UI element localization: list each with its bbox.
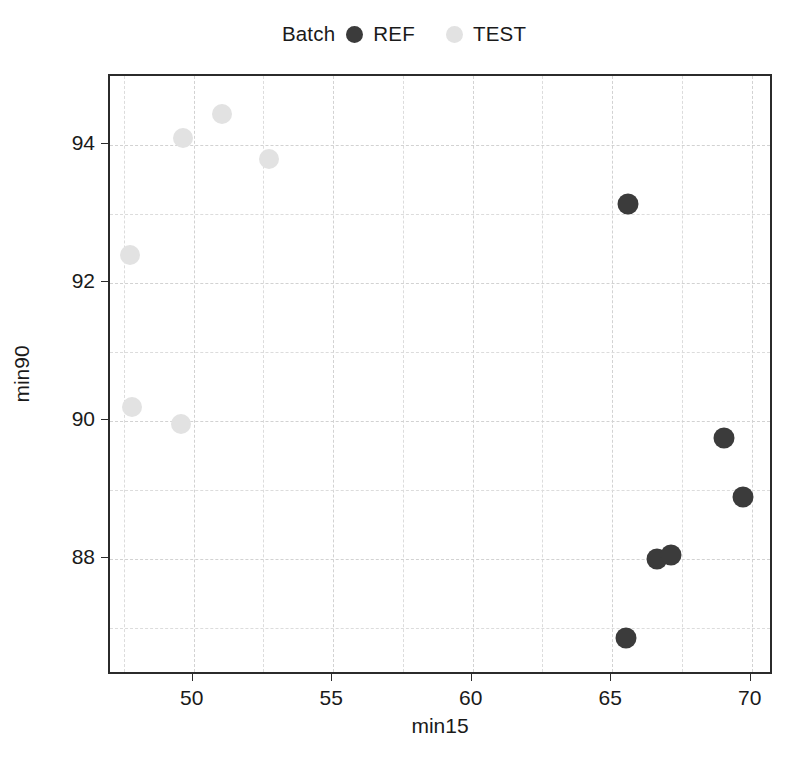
- data-point-test[interactable]: [212, 104, 232, 124]
- y-axis-tick-label: 94: [72, 131, 95, 155]
- x-axis-tick-label: 70: [738, 686, 761, 710]
- y-axis-label: min90: [10, 345, 34, 402]
- data-point-ref[interactable]: [617, 193, 638, 214]
- y-axis-tick-label: 92: [72, 269, 95, 293]
- data-point-ref[interactable]: [733, 486, 754, 507]
- data-point-ref[interactable]: [713, 428, 734, 449]
- y-axis-tick: [101, 143, 108, 144]
- data-point-test[interactable]: [122, 397, 142, 417]
- legend-title: Batch: [282, 22, 335, 46]
- y-axis-tick: [101, 557, 108, 558]
- x-axis-label: min15: [108, 714, 772, 738]
- plot-area: [108, 74, 772, 674]
- x-axis-tick-label: 50: [180, 686, 203, 710]
- legend-entry-ref[interactable]: REF: [346, 22, 415, 46]
- legend-marker-test-icon: [446, 26, 463, 43]
- data-point-ref[interactable]: [660, 545, 681, 566]
- legend-label-test: TEST: [473, 22, 526, 46]
- x-axis-tick-label: 55: [320, 686, 343, 710]
- data-point-test[interactable]: [120, 245, 140, 265]
- scatter-plot-figure: Batch REF TEST 505560657088909294 min15 …: [0, 0, 808, 769]
- legend: Batch REF TEST: [0, 22, 808, 46]
- y-axis-tick-label: 90: [72, 407, 95, 431]
- x-axis-tick: [192, 674, 193, 681]
- x-axis-tick: [331, 674, 332, 681]
- legend-marker-ref-icon: [346, 26, 363, 43]
- x-axis-tick: [610, 674, 611, 681]
- y-axis-tick: [101, 419, 108, 420]
- legend-entry-test[interactable]: TEST: [446, 22, 526, 46]
- x-axis-tick-label: 60: [459, 686, 482, 710]
- data-points-layer: [110, 76, 770, 672]
- x-axis-tick: [750, 674, 751, 681]
- y-axis-tick: [101, 281, 108, 282]
- data-point-test[interactable]: [259, 149, 279, 169]
- data-point-test[interactable]: [173, 128, 193, 148]
- x-axis-tick-label: 65: [598, 686, 621, 710]
- y-axis-tick-label: 88: [72, 545, 95, 569]
- data-point-test[interactable]: [171, 414, 191, 434]
- legend-label-ref: REF: [373, 22, 415, 46]
- data-point-ref[interactable]: [616, 628, 637, 649]
- x-axis-tick: [471, 674, 472, 681]
